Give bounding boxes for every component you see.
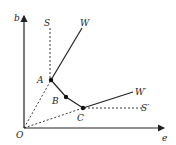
w-prime-line bbox=[83, 92, 133, 108]
s-label: S bbox=[44, 18, 50, 28]
diagram-canvas: b e O S W A B C W′ S′ bbox=[0, 0, 176, 145]
w-line bbox=[51, 28, 82, 80]
point-b bbox=[64, 95, 68, 99]
x-axis-label: e bbox=[162, 133, 167, 143]
origin-label: O bbox=[16, 130, 24, 140]
b-label: B bbox=[51, 96, 59, 106]
oc-dashed-line bbox=[24, 108, 83, 128]
y-axis-label: b bbox=[14, 13, 20, 23]
point-c bbox=[81, 106, 85, 110]
oa-dashed-line bbox=[24, 80, 51, 128]
w-prime-label: W′ bbox=[135, 87, 146, 97]
c-label: C bbox=[77, 113, 84, 123]
w-label: W bbox=[80, 18, 90, 28]
a-label: A bbox=[36, 75, 44, 85]
point-a bbox=[49, 78, 53, 82]
s-prime-label: S′ bbox=[141, 103, 149, 113]
